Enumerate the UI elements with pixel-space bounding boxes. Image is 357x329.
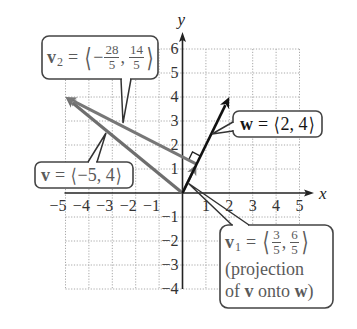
v1-equals: =: [246, 232, 256, 253]
v1-caption-line-1: (projection: [225, 258, 331, 280]
label-v2: v 2 = ⟨ − 28 5 , 14 5 ⟩: [47, 36, 155, 79]
numerator: 14: [129, 43, 144, 58]
y-axis-label: y: [176, 10, 186, 29]
y-tick-label: 5: [171, 64, 179, 81]
numerator: 6: [290, 228, 299, 243]
right-angle-bracket: ⟩: [308, 115, 314, 134]
v-value: −5, 4: [78, 165, 115, 186]
v1-caption-line-2: of v onto w): [225, 280, 331, 302]
v1-equation: v 1 = ⟨ 3 5 , 6 5 ⟩: [225, 226, 331, 258]
w-equals: =: [258, 114, 268, 135]
y-tick-label: 1: [171, 160, 179, 177]
x-tick-label: −4: [73, 197, 90, 214]
caption-text: of: [225, 281, 245, 301]
y-tick-label: 6: [171, 40, 179, 57]
left-angle-bracket: ⟨: [85, 45, 92, 71]
left-angle-bracket: ⟨: [274, 115, 280, 134]
numerator: 28: [104, 43, 119, 58]
v1-comma: ,: [282, 232, 287, 253]
left-angle-bracket: ⟨: [263, 229, 270, 255]
v1-symbol: v: [225, 232, 234, 253]
x-tick-label: 5: [296, 197, 304, 214]
v2-equals: =: [68, 47, 78, 68]
v1-fraction-y: 6 5: [290, 228, 299, 257]
x-tick-label: −3: [96, 197, 113, 214]
w-value: 2, 4: [281, 114, 308, 135]
y-tick-label: 3: [171, 112, 179, 129]
denominator: 5: [108, 58, 117, 72]
w-symbol: w: [240, 114, 253, 135]
denominator: 5: [272, 243, 281, 257]
caption-text: onto: [254, 281, 295, 301]
label-v: v = ⟨ −5, 4 ⟩: [41, 162, 122, 188]
y-tick-label: −4: [161, 280, 178, 297]
right-angle-bracket: ⟩: [301, 229, 308, 255]
v-symbol: v: [41, 165, 50, 186]
x-tick-label: −1: [143, 197, 160, 214]
label-w: w = ⟨ 2, 4 ⟩: [240, 111, 315, 137]
vector-projection-figure: xy −5−4−3−2−112345−4−3−2−1123456: [0, 0, 357, 329]
denominator: 5: [132, 58, 141, 72]
v1-subscript: 1: [235, 240, 241, 255]
v1-fraction-x: 3 5: [272, 228, 281, 257]
x-axis-label: x: [318, 184, 327, 203]
right-angle-bracket: ⟩: [115, 166, 121, 185]
caption-v-symbol: v: [245, 281, 254, 301]
y-tick-label: −3: [161, 256, 178, 273]
caption-text: ): [308, 281, 314, 301]
v2-comma: ,: [120, 47, 125, 68]
right-angle-bracket: ⟩: [146, 45, 153, 71]
v2-symbol: v: [47, 47, 56, 68]
x-tick-label: 4: [272, 197, 280, 214]
x-tick-label: −5: [49, 197, 66, 214]
caption-w-symbol: w: [295, 281, 308, 301]
y-tick-label: 4: [171, 88, 179, 105]
v2-subscript: 2: [57, 55, 63, 70]
label-v1: v 1 = ⟨ 3 5 , 6 5 ⟩ (projection of v ont…: [225, 226, 331, 302]
left-angle-bracket: ⟨: [71, 166, 77, 185]
v2-fraction-x: 28 5: [104, 43, 119, 72]
y-tick-label: −1: [161, 208, 178, 225]
x-tick-label: −2: [120, 197, 137, 214]
v-equals: =: [55, 165, 65, 186]
vector-w: [183, 105, 226, 193]
numerator: 3: [272, 228, 281, 243]
v2-minus: −: [93, 47, 103, 68]
denominator: 5: [290, 243, 299, 257]
v2-fraction-y: 14 5: [129, 43, 144, 72]
x-tick-label: 3: [249, 197, 257, 214]
y-tick-label: −2: [161, 232, 178, 249]
